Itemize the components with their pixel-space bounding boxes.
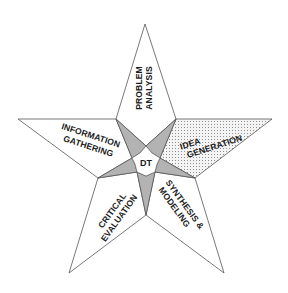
svg-text:ANALYSIS: ANALYSIS [144,66,154,110]
label-problem-analysis: PROBLEM ANALYSIS [134,66,154,110]
design-thinking-star: DT PROBLEM ANALYSIS IDEA GENERATION SYNT… [0,0,288,293]
center-label: DT [140,158,152,168]
svg-text:PROBLEM: PROBLEM [134,66,144,110]
